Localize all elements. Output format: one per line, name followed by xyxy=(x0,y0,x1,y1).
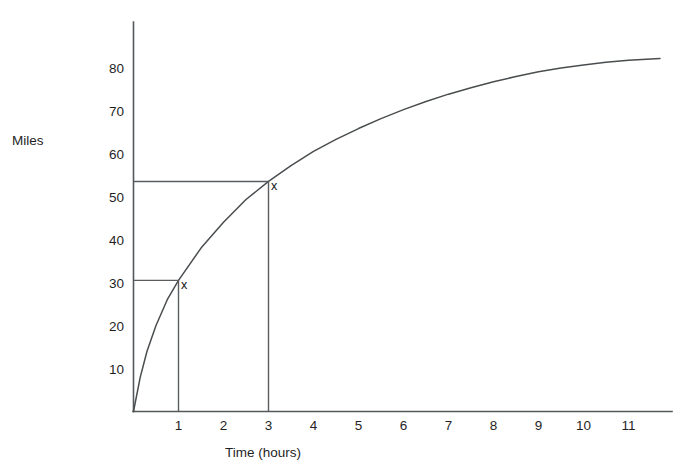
y-tick-label-80: 80 xyxy=(109,61,124,76)
x-tick-label-4: 4 xyxy=(310,418,318,433)
y-tick-label-70: 70 xyxy=(109,104,124,119)
x-tick-label-8: 8 xyxy=(490,418,498,433)
y-tick-label-40: 40 xyxy=(109,233,124,248)
x-tick-label-6: 6 xyxy=(400,418,408,433)
line-chart: x x 10 20 30 40 50 60 70 80 1 2 3 4 5 6 … xyxy=(0,0,682,473)
distance-curve-smooth xyxy=(134,58,661,411)
x-tick-label-7: 7 xyxy=(445,418,453,433)
x-tick-label-9: 9 xyxy=(535,418,543,433)
y-tick-label-30: 30 xyxy=(109,276,124,291)
annotation-marker-1: x xyxy=(181,278,188,292)
x-tick-label-5: 5 xyxy=(355,418,363,433)
x-tick-label-1: 1 xyxy=(175,418,183,433)
annotation-marker-2: x xyxy=(271,179,278,193)
chart-container: x x 10 20 30 40 50 60 70 80 1 2 3 4 5 6 … xyxy=(0,0,682,473)
y-tick-label-60: 60 xyxy=(109,147,124,162)
x-tick-label-3: 3 xyxy=(265,418,273,433)
y-axis-title: Miles xyxy=(12,133,44,148)
y-tick-label-50: 50 xyxy=(109,190,124,205)
x-tick-label-11: 11 xyxy=(621,418,635,433)
x-tick-label-10: 10 xyxy=(576,418,591,433)
x-tick-label-2: 2 xyxy=(220,418,228,433)
y-tick-label-10: 10 xyxy=(109,362,124,377)
y-tick-label-20: 20 xyxy=(109,319,124,334)
x-axis-title: Time (hours) xyxy=(225,445,301,460)
